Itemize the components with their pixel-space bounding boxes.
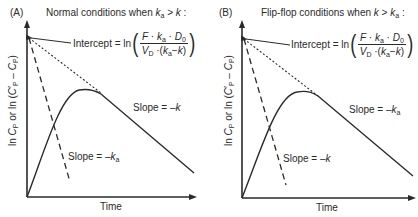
panel-normal-conditions: (A) Normal conditions when ka > k : Inte… xyxy=(0,0,209,217)
sub-a: a xyxy=(380,37,384,44)
ylabel-ln: ln xyxy=(7,135,18,146)
fraction-numerator: F · ka · D0 xyxy=(140,31,188,44)
var-F: F xyxy=(360,32,366,43)
intercept-formula: Intercept = ln ( F · ka · D0 VD ·(ka−k) … xyxy=(73,30,197,56)
right-paren: ) xyxy=(407,31,413,57)
slope-sub: a xyxy=(397,109,401,116)
title-operator: > xyxy=(379,7,390,18)
panel-flip-flop-conditions: (B) Flip-flop conditions when k > ka : I… xyxy=(209,0,418,217)
ylabel-close: ) xyxy=(7,55,18,58)
fraction-denominator: VD ·(ka−k) xyxy=(140,44,188,56)
slope-text: Slope = – xyxy=(283,153,326,164)
fraction-denominator: VD ·(ka−k) xyxy=(358,45,406,57)
title-operator: > xyxy=(164,7,175,18)
ylabel-or: or ln ( xyxy=(223,95,234,123)
slope-label-upper: Slope = –ka xyxy=(349,105,400,115)
slope-var: k xyxy=(326,153,331,164)
ylabel-minus: – xyxy=(7,70,18,81)
ylabel-C3-sub: P xyxy=(228,58,235,63)
sub-0: 0 xyxy=(182,36,186,43)
sub-D: D xyxy=(148,50,153,57)
x-axis-label: Time xyxy=(316,203,338,213)
y-axis-label: ln CP or ln (C′P – CP) xyxy=(224,55,234,146)
panel-title: Flip-flop conditions when k > ka : xyxy=(261,8,405,18)
title-suffix: : xyxy=(181,7,187,18)
var-D: D xyxy=(393,32,400,43)
right-paren: ) xyxy=(189,30,195,56)
fraction: F · ka · D0 VD ·(ka−k) xyxy=(140,31,188,56)
ylabel-prime: ′ xyxy=(7,86,18,88)
left-paren: ( xyxy=(350,31,356,57)
var-F: F xyxy=(142,31,148,42)
x-axis-label: Time xyxy=(100,202,122,212)
ylabel-minus: – xyxy=(223,70,234,81)
slope-label-upper: Slope = –k xyxy=(133,103,181,113)
slope-text: Slope = – xyxy=(68,151,111,162)
ylabel-ln: ln xyxy=(223,135,234,146)
ylabel-C2-sub: P xyxy=(228,81,235,86)
title-text: Normal conditions when xyxy=(46,7,156,18)
var-k: k xyxy=(396,46,401,57)
var-k: k xyxy=(178,45,183,56)
slope-sub: a xyxy=(116,156,120,163)
residual-line-dashed xyxy=(29,38,70,182)
ylabel-close: ) xyxy=(223,55,234,58)
intercept-label: Intercept = ln xyxy=(73,38,131,49)
slope-label-lower: Slope = –k xyxy=(283,154,331,164)
var-D: D xyxy=(175,31,182,42)
fraction: F · ka · D0 VD ·(ka−k) xyxy=(358,32,406,57)
left-paren: ( xyxy=(132,30,138,56)
ylabel-C3: C xyxy=(223,63,234,70)
fraction-numerator: F · ka · D0 xyxy=(358,32,406,45)
intercept-label: Intercept = ln xyxy=(291,39,349,50)
slope-var: k xyxy=(176,102,181,113)
residual-line-dashed xyxy=(244,39,286,185)
ylabel-C2: C xyxy=(7,88,18,95)
ylabel-C2: C xyxy=(223,88,234,95)
ylabel-or: or ln ( xyxy=(7,95,18,123)
sub-a: a xyxy=(162,36,166,43)
slope-text: Slope = – xyxy=(133,102,176,113)
ylabel-C-sub: P xyxy=(228,124,235,129)
title-suffix: : xyxy=(399,7,405,18)
intercept-pointer xyxy=(31,38,71,43)
panel-letter: (A) xyxy=(10,8,23,18)
intercept-formula: Intercept = ln ( F · ka · D0 VD ·(ka−k) … xyxy=(291,31,415,57)
slope-label-lower: Slope = –ka xyxy=(68,152,119,162)
ylabel-C-sub: P xyxy=(12,124,19,129)
ylabel-C2-sub: P xyxy=(12,81,19,86)
sub-0: 0 xyxy=(400,37,404,44)
ylabel-prime: ′ xyxy=(223,86,234,88)
ylabel-C: C xyxy=(223,128,234,135)
ylabel-C3-sub: P xyxy=(12,58,19,63)
title-text: Flip-flop conditions when xyxy=(261,7,374,18)
intercept-pointer xyxy=(246,39,290,45)
y-axis-label: ln CP or ln (C′P – CP) xyxy=(8,55,18,146)
sub-D: D xyxy=(366,51,371,58)
ylabel-C: C xyxy=(7,128,18,135)
slope-text: Slope = – xyxy=(349,104,392,115)
panel-title: Normal conditions when ka > k : xyxy=(46,8,186,18)
ylabel-C3: C xyxy=(7,63,18,70)
panel-letter: (B) xyxy=(219,8,232,18)
